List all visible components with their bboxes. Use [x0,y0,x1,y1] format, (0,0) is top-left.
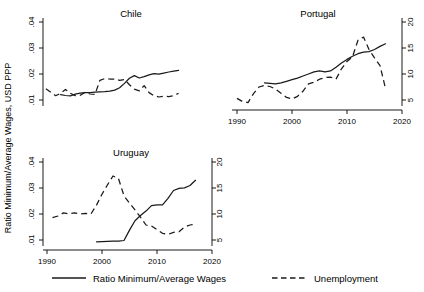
legend-label-ratio: Ratio Minimum/Average Wages [93,273,226,284]
panel-title-uruguay: Uruguay [113,147,149,158]
legend-label-unemployment: Unemployment [314,273,378,284]
panel-portugal: Portugal 20 15 10 5 1990 2000 2010 2020 [228,8,415,126]
uruguay-yticklabel-20: 20 [215,157,224,166]
portugal-xticklabel-2020: 2020 [393,117,411,126]
portugal-yticklabel-20: 20 [406,17,415,26]
portugal-yticklabel-10: 10 [406,69,415,78]
portugal-xticklabel-1990: 1990 [228,117,246,126]
portugal-xticklabel-2010: 2010 [338,117,356,126]
multi-panel-line-chart: Ratio Minimum/Average Wages, USD PPP Chi… [0,0,424,292]
chile-series-unemployment [46,79,179,97]
portugal-xticklabel-2000: 2000 [283,117,301,126]
chile-yticklabel-04: .04 [27,16,36,28]
uruguay-yticklabel-03: .03 [27,182,36,194]
portugal-yticklabel-15: 15 [406,43,415,52]
uruguay-xticklabel-2020: 2020 [203,257,221,266]
uruguay-xticklabel-1990: 1990 [38,257,56,266]
uruguay-xticklabel-2000: 2000 [93,257,111,266]
chile-yticklabel-02: .02 [27,68,36,80]
chile-yticklabel-03: .03 [27,42,36,54]
portugal-series-unemployment [237,37,386,103]
uruguay-yticklabel-04: .04 [27,156,36,168]
chart-legend: Ratio Minimum/Average Wages Unemployment [52,273,378,284]
uruguay-series-ratio [97,180,196,242]
uruguay-yticklabel-5: 5 [215,237,224,242]
uruguay-yticklabel-01: .01 [27,234,36,246]
chile-series-ratio [61,70,179,95]
figure-ylabel: Ratio Minimum/Average Wages, USD PPP [3,63,13,234]
portugal-series-ratio [265,44,386,84]
uruguay-xticklabel-2010: 2010 [148,257,166,266]
panel-title-chile: Chile [120,8,142,19]
uruguay-yticklabel-10: 10 [215,209,224,218]
uruguay-series-unemployment [53,176,196,234]
portugal-yticklabel-5: 5 [406,97,415,102]
panel-title-portugal: Portugal [300,8,335,19]
chile-yticklabel-01: .01 [27,94,36,106]
uruguay-yticklabel-02: .02 [27,208,36,220]
panel-chile: Chile .04 .03 .02 .01 [27,8,179,106]
uruguay-yticklabel-15: 15 [215,183,224,192]
panel-uruguay: Uruguay .04 .03 .02 .01 20 15 10 5 1990 … [27,147,224,266]
